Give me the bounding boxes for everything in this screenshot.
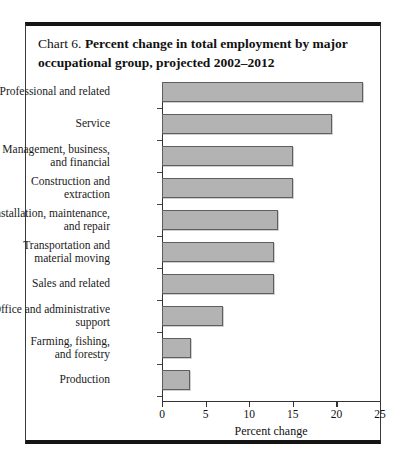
category-label: Farming, fishing,and forestry <box>0 335 110 362</box>
category-label: Office and administrativesupport <box>0 303 110 330</box>
y-axis-tick <box>157 140 162 141</box>
x-axis-tick-label: 25 <box>374 408 386 420</box>
x-axis-tick-label: 5 <box>203 408 209 420</box>
x-axis-tick-label: 0 <box>159 408 165 420</box>
bar <box>162 338 191 358</box>
y-axis-tick <box>157 236 162 237</box>
bar <box>162 210 278 230</box>
x-axis-line <box>162 401 380 402</box>
y-axis-tick <box>157 268 162 269</box>
category-label: Construction andextraction <box>0 175 110 202</box>
y-axis-tick <box>157 300 162 301</box>
y-axis-tick <box>157 172 162 173</box>
category-label: Installation, maintenance,and repair <box>0 207 110 234</box>
bar <box>162 82 363 102</box>
bar <box>162 178 293 198</box>
x-axis-tick <box>162 401 163 407</box>
y-axis-tick <box>157 108 162 109</box>
x-axis-tick <box>380 401 381 407</box>
bar <box>162 114 332 134</box>
bar <box>162 306 223 326</box>
x-axis-tick-label: 20 <box>331 408 343 420</box>
category-label: Production <box>0 373 110 387</box>
category-label: Professional and related <box>0 85 110 99</box>
chart-figure-frame: Chart 6. Percent change in total employm… <box>25 22 381 444</box>
category-label: Service <box>0 117 110 131</box>
category-label: Management, business,and financial <box>0 143 110 170</box>
x-axis-tick-label: 15 <box>287 408 299 420</box>
category-label: Sales and related <box>0 277 110 291</box>
x-axis-tick <box>249 401 250 407</box>
bar <box>162 242 274 262</box>
plot-area: 0510152025 Professional and relatedServi… <box>26 26 380 440</box>
bar <box>162 370 190 390</box>
bar <box>162 274 274 294</box>
y-axis-tick <box>157 332 162 333</box>
x-axis-tick <box>336 401 337 407</box>
y-axis-tick <box>157 396 162 397</box>
x-axis-title: Percent change <box>162 424 380 439</box>
bar <box>162 146 293 166</box>
x-axis-tick-label: 10 <box>243 408 255 420</box>
category-label: Transportation andmaterial moving <box>0 239 110 266</box>
y-axis-tick <box>157 364 162 365</box>
x-axis-tick <box>293 401 294 407</box>
x-axis-tick <box>206 401 207 407</box>
y-axis-tick <box>157 204 162 205</box>
